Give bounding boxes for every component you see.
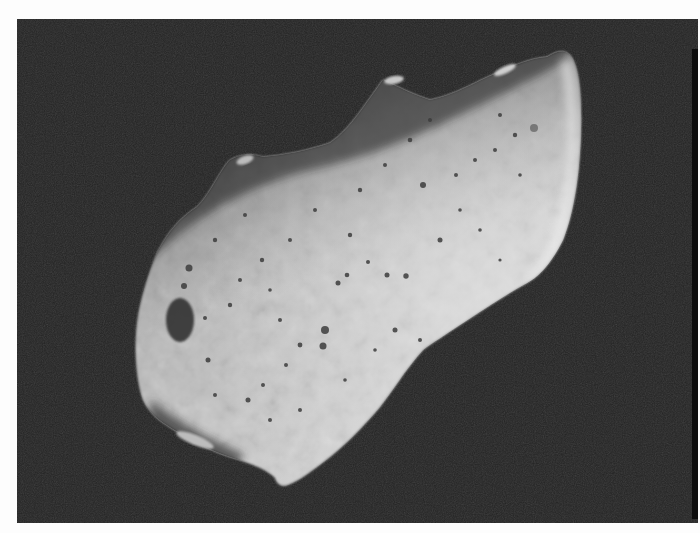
photo-edge-shadow <box>692 49 698 519</box>
asteroid-illustration <box>17 19 698 523</box>
asteroid-photo <box>17 19 698 523</box>
